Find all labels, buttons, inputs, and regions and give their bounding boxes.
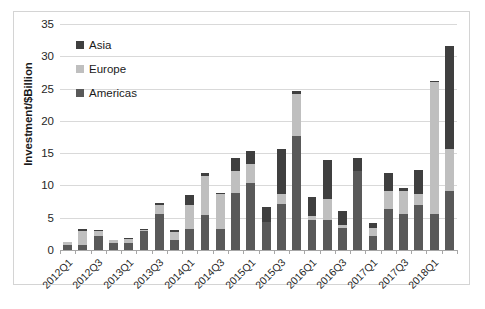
x-axis-tick-label: 2014Q3 xyxy=(192,256,227,291)
bar-segment-asia xyxy=(445,46,454,149)
bar-2018Q2 xyxy=(445,46,454,250)
y-axis-tick-label: 10 xyxy=(41,179,54,191)
gridline xyxy=(60,121,457,122)
x-axis-tick-mark xyxy=(396,250,397,254)
bar-segment-americas xyxy=(201,215,210,250)
bar-2015Q2 xyxy=(262,207,271,250)
bar-segment-americas xyxy=(231,193,240,250)
bar-segment-asia xyxy=(414,170,423,195)
bar-2016Q4 xyxy=(353,158,362,250)
x-axis-tick-mark xyxy=(350,250,351,254)
chart-container: Investment/$Billion 051015202530352012Q1… xyxy=(13,11,470,285)
x-axis-tick-mark xyxy=(442,250,443,254)
bar-2014Q4 xyxy=(231,158,240,250)
x-axis-tick-mark xyxy=(274,250,275,254)
bar-segment-europe xyxy=(323,199,332,220)
x-axis-tick-mark xyxy=(457,250,458,254)
x-axis-tick-mark xyxy=(259,250,260,254)
bar-2013Q3 xyxy=(155,203,164,250)
y-axis-title: Investment/$Billion xyxy=(22,24,34,204)
bar-segment-americas xyxy=(262,222,271,250)
bar-segment-asia xyxy=(277,149,286,194)
x-axis-tick-mark xyxy=(91,250,92,254)
bar-segment-americas xyxy=(445,191,454,250)
y-axis-tick-label: 15 xyxy=(41,147,54,159)
bar-segment-americas xyxy=(63,245,72,250)
legend-swatch-americas xyxy=(76,89,84,97)
bar-2015Q3 xyxy=(277,149,286,250)
x-axis-tick-mark xyxy=(228,250,229,254)
bar-segment-europe xyxy=(185,205,194,228)
x-axis-tick-label: 2015Q1 xyxy=(222,256,257,291)
x-axis-tick-mark xyxy=(60,250,61,254)
x-axis-tick-mark xyxy=(381,250,382,254)
legend-label-europe: Europe xyxy=(89,63,126,75)
x-axis-tick-mark xyxy=(365,250,366,254)
bar-segment-americas xyxy=(384,209,393,250)
x-axis-tick-mark xyxy=(411,250,412,254)
x-axis-tick-mark xyxy=(182,250,183,254)
bar-segment-americas xyxy=(124,243,133,250)
x-axis-tick-label: 2016Q3 xyxy=(314,256,349,291)
y-axis-tick-label: 5 xyxy=(48,212,54,224)
bar-segment-asia xyxy=(338,211,347,225)
bar-segment-americas xyxy=(185,229,194,250)
y-axis-tick-label: 20 xyxy=(41,115,54,127)
bar-segment-americas xyxy=(292,136,301,250)
bar-segment-americas xyxy=(170,240,179,250)
bar-2017Q4 xyxy=(414,170,423,250)
bar-segment-americas xyxy=(414,205,423,250)
bar-segment-americas xyxy=(338,228,347,250)
bar-segment-asia xyxy=(308,197,317,216)
bar-segment-americas xyxy=(78,245,87,250)
y-axis-tick-label: 30 xyxy=(41,50,54,62)
gridline xyxy=(60,185,457,186)
bar-segment-europe xyxy=(384,191,393,208)
bar-segment-americas xyxy=(94,236,103,250)
bar-2017Q1 xyxy=(369,223,378,250)
y-axis-tick-label: 0 xyxy=(48,244,54,256)
bar-segment-americas xyxy=(353,171,362,250)
bar-2016Q2 xyxy=(323,160,332,250)
bar-segment-asia xyxy=(262,207,271,221)
bar-segment-americas xyxy=(399,214,408,250)
bar-segment-americas xyxy=(246,183,255,250)
chart-legend: Asia Europe Americas xyxy=(76,38,137,110)
bar-segment-asia xyxy=(185,195,194,205)
bar-segment-asia xyxy=(246,151,255,165)
x-axis-tick-mark xyxy=(197,250,198,254)
bar-segment-americas xyxy=(216,229,225,250)
bar-segment-europe xyxy=(369,228,378,236)
legend-item-asia: Asia xyxy=(76,38,137,51)
x-axis-tick-mark xyxy=(167,250,168,254)
bar-segment-americas xyxy=(369,236,378,250)
bar-2016Q3 xyxy=(338,211,347,250)
x-axis-tick-label: 2012Q1 xyxy=(39,256,74,291)
bar-segment-americas xyxy=(109,243,118,250)
bar-segment-asia xyxy=(231,158,240,171)
x-axis-tick-mark xyxy=(243,250,244,254)
bar-segment-americas xyxy=(323,220,332,250)
x-axis-tick-label: 2012Q3 xyxy=(70,256,105,291)
bar-2014Q2 xyxy=(201,173,210,250)
bar-segment-asia xyxy=(384,173,393,191)
bar-segment-asia xyxy=(353,158,362,170)
bar-segment-europe xyxy=(216,194,225,229)
bar-segment-americas xyxy=(430,214,439,250)
bar-segment-americas xyxy=(308,220,317,250)
bar-segment-europe xyxy=(246,164,255,183)
x-axis-tick-mark xyxy=(304,250,305,254)
bar-2012Q3 xyxy=(94,230,103,250)
y-axis-tick-label: 35 xyxy=(41,18,54,30)
bar-2013Q2 xyxy=(140,229,149,250)
bar-2014Q1 xyxy=(185,195,194,250)
x-axis-tick-label: 2017Q3 xyxy=(375,256,410,291)
x-axis-tick-mark xyxy=(152,250,153,254)
bar-segment-europe xyxy=(201,176,210,215)
bar-2016Q1 xyxy=(308,197,317,250)
bar-segment-europe xyxy=(399,191,408,214)
bar-segment-europe xyxy=(231,171,240,192)
x-axis-tick-mark xyxy=(426,250,427,254)
bar-2015Q1 xyxy=(246,151,255,250)
bar-segment-europe xyxy=(277,194,286,204)
